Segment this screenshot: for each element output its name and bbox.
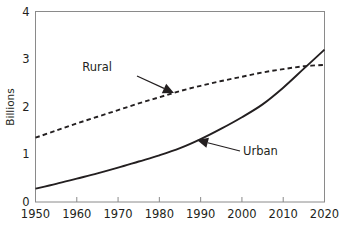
- x-axis-tick-label: 1980: [145, 207, 174, 221]
- x-axis-tick-label: 1990: [186, 207, 215, 221]
- series-label-rural: Rural: [82, 60, 112, 74]
- population-line-chart: 19501960197019801990200020102020 01234 B…: [0, 0, 341, 232]
- y-axis-title: Billions: [4, 88, 16, 125]
- x-axis-tick-label: 2010: [269, 207, 298, 221]
- x-axis-tick-label: 1970: [103, 207, 132, 221]
- y-axis-tick-label: 3: [22, 52, 29, 66]
- y-axis-tick-label: 0: [22, 195, 29, 209]
- chart-container: 19501960197019801990200020102020 01234 B…: [0, 0, 341, 232]
- chart-background: [0, 0, 341, 232]
- series-label-urban: Urban: [243, 144, 278, 158]
- y-axis-tick-label: 1: [22, 147, 29, 161]
- y-axis-tick-label: 2: [22, 100, 29, 114]
- y-axis-tick-label: 4: [22, 5, 29, 19]
- x-axis-tick-label: 1960: [62, 207, 91, 221]
- x-axis-tick-label: 2020: [310, 207, 339, 221]
- x-axis-tick-label: 1950: [21, 207, 50, 221]
- x-axis-tick-label: 2000: [227, 207, 256, 221]
